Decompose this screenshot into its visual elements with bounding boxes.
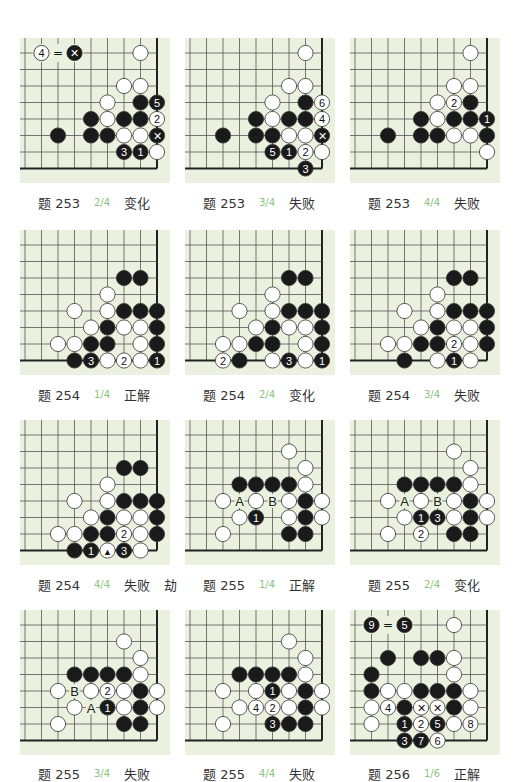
- white-stone: [67, 493, 82, 508]
- svg-text:3: 3: [121, 545, 127, 557]
- black-stone: [149, 303, 164, 318]
- white-stone: [446, 78, 461, 93]
- svg-text:6: 6: [319, 97, 325, 109]
- problem-number: 题 255: [38, 764, 80, 782]
- go-diagram: 1423: [185, 610, 335, 755]
- black-stone: 3: [298, 161, 313, 176]
- black-stone: [83, 111, 98, 126]
- problem-number: 题 254: [368, 385, 410, 404]
- white-stone: [50, 716, 65, 731]
- black-stone: 5: [265, 144, 280, 159]
- black-stone: [446, 111, 461, 126]
- black-stone: [430, 320, 445, 335]
- white-stone: 4: [380, 700, 395, 715]
- black-stone: [100, 320, 115, 335]
- svg-text:B: B: [433, 494, 442, 509]
- white-stone: [215, 493, 230, 508]
- go-diagram: 231: [185, 230, 335, 375]
- black-stone: [479, 336, 494, 351]
- svg-text:✕: ✕: [70, 47, 79, 59]
- white-stone: [83, 320, 98, 335]
- white-stone: [265, 303, 280, 318]
- diagram-caption: 题 2553/4失败: [18, 763, 183, 782]
- go-diagram: 21: [350, 38, 500, 183]
- black-stone: [232, 477, 247, 492]
- svg-text:3: 3: [434, 512, 440, 524]
- black-stone: [397, 353, 412, 368]
- svg-text:1: 1: [451, 355, 457, 367]
- black-stone: 5: [430, 716, 445, 731]
- black-stone: [116, 716, 131, 731]
- white-stone: 8: [463, 716, 478, 731]
- result-label: 失败: [124, 575, 150, 594]
- white-stone: 2: [149, 111, 164, 126]
- white-stone: [446, 493, 461, 508]
- diagram-fraction: 1/4: [259, 579, 275, 590]
- black-stone: [397, 700, 412, 715]
- go-board: 64✕5123: [185, 38, 335, 183]
- white-stone: [232, 510, 247, 525]
- black-stone: 1: [479, 111, 494, 126]
- black-stone: [463, 270, 478, 285]
- black-stone: [149, 526, 164, 541]
- black-stone: 1: [314, 353, 329, 368]
- black-stone: [413, 336, 428, 351]
- black-stone: [83, 667, 98, 682]
- svg-text:3: 3: [302, 163, 308, 175]
- white-stone: [446, 650, 461, 665]
- go-board: 9=54✕✕1258376: [350, 610, 500, 755]
- result-label: 变化: [289, 385, 315, 404]
- white-stone: [430, 303, 445, 318]
- go-board: 21▲3: [20, 420, 170, 565]
- svg-text:4: 4: [253, 702, 259, 714]
- go-diagram: 21: [350, 230, 500, 375]
- black-stone: [314, 303, 329, 318]
- black-stone: ✕: [149, 128, 164, 143]
- white-stone: [298, 650, 313, 665]
- black-stone: [479, 128, 494, 143]
- white-stone: [133, 78, 148, 93]
- go-diagram: 321: [20, 230, 170, 375]
- diagram-fraction: 2/4: [424, 579, 440, 590]
- white-stone: 2: [100, 683, 115, 698]
- white-stone: [50, 683, 65, 698]
- white-stone: 4: [314, 111, 329, 126]
- black-stone: 1: [133, 144, 148, 159]
- white-stone: [298, 353, 313, 368]
- black-stone: [463, 510, 478, 525]
- diagram-caption: 题 2551/4正解: [183, 574, 348, 594]
- black-stone: [232, 667, 247, 682]
- svg-text:✕: ✕: [417, 702, 426, 714]
- black-stone: [430, 683, 445, 698]
- black-stone: [413, 650, 428, 665]
- result-label: 正解: [289, 575, 315, 594]
- white-stone: [380, 336, 395, 351]
- svg-text:4: 4: [385, 702, 391, 714]
- point-label: B: [70, 684, 80, 699]
- white-stone: [67, 336, 82, 351]
- black-stone: [248, 111, 263, 126]
- black-stone: [215, 128, 230, 143]
- white-stone: 2: [215, 353, 230, 368]
- white-stone: [463, 45, 478, 60]
- black-stone: [100, 510, 115, 525]
- go-board: AB1: [185, 420, 335, 565]
- go-diagram: 21▲3: [20, 420, 170, 565]
- white-stone: [83, 683, 98, 698]
- black-stone: [67, 543, 82, 558]
- black-stone: 3: [83, 353, 98, 368]
- white-stone: [298, 320, 313, 335]
- diagram-fraction: 1/6: [424, 768, 440, 779]
- svg-text:7: 7: [418, 735, 424, 747]
- problem-number: 题 254: [203, 385, 245, 404]
- svg-text:3: 3: [286, 355, 292, 367]
- black-stone: [281, 477, 296, 492]
- svg-text:1: 1: [88, 545, 94, 557]
- black-stone: [446, 526, 461, 541]
- white-stone: 2: [116, 526, 131, 541]
- black-stone: [463, 111, 478, 126]
- black-stone: [430, 477, 445, 492]
- ko-label: 劫: [164, 575, 177, 594]
- black-stone: 1: [149, 353, 164, 368]
- black-stone: 1: [265, 683, 280, 698]
